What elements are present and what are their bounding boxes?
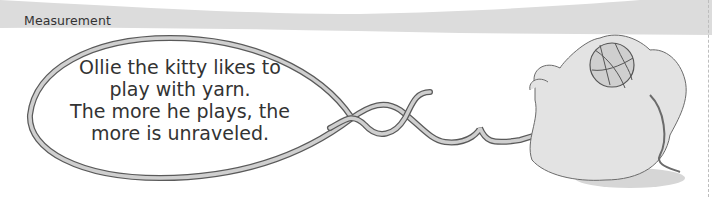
kitten-illustration [530,35,686,188]
speech-line-2: play with yarn. [60,78,300,100]
worksheet-header-panel: Measurement Ollie the kitty likes to pla… [0,0,712,197]
speech-line-1: Ollie the kitty likes to [60,56,300,78]
speech-line-3: The more he plays, the [60,100,300,122]
speech-bubble-text: Ollie the kitty likes to play with yarn.… [60,56,300,144]
page-cut-line [708,0,709,197]
speech-line-4: more is unraveled. [60,122,300,144]
